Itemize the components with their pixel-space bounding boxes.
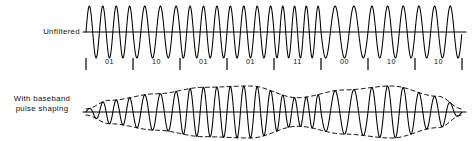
waveform-plot: [0, 0, 476, 141]
unfiltered-trace-label: Unfiltered: [6, 27, 80, 36]
shaped-waveform-group: [83, 86, 466, 138]
symbol-label-0: 01: [105, 57, 114, 66]
modulation-comparison-figure: Unfiltered With baseband pulse shaping 0…: [0, 0, 476, 141]
shaped-lower-envelope-path: [86, 115, 462, 138]
shaped-trace-label-line2: pulse shaping: [16, 104, 69, 113]
symbol-label-7: 10: [434, 57, 443, 66]
symbol-label-2: 01: [199, 57, 208, 66]
symbol-label-4: 11: [293, 57, 301, 66]
shaped-trace-label: With baseband pulse shaping: [2, 94, 82, 113]
unfiltered-waveform-group: [83, 6, 466, 58]
symbol-tick-group: [86, 58, 462, 70]
symbol-label-6: 10: [387, 57, 396, 66]
shaped-trace-label-line1: With baseband: [14, 94, 71, 103]
symbol-label-3: 01: [246, 57, 255, 66]
symbol-label-1: 10: [152, 57, 161, 66]
symbol-label-5: 00: [340, 57, 349, 66]
